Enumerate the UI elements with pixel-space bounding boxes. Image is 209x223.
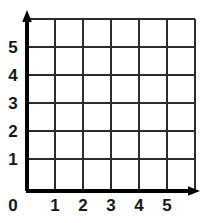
- grid-lines: [27, 19, 195, 191]
- y-tick-label-4: 4: [3, 67, 23, 84]
- y-tick-label-1: 1: [3, 151, 23, 168]
- x-axis-arrow-icon: [188, 186, 200, 196]
- x-tick-label-3: 3: [101, 197, 121, 214]
- x-tick-label-4: 4: [129, 197, 149, 214]
- y-tick-label-3: 3: [3, 95, 23, 112]
- x-tick-label-5: 5: [157, 197, 177, 214]
- x-tick-label-0: 0: [3, 197, 23, 214]
- grid-canvas: [0, 0, 209, 223]
- y-tick-label-5: 5: [3, 39, 23, 56]
- y-tick-label-2: 2: [3, 123, 23, 140]
- x-tick-label-1: 1: [45, 197, 65, 214]
- y-axis: [22, 10, 32, 191]
- x-axis: [26, 186, 200, 196]
- x-tick-label-2: 2: [73, 197, 93, 214]
- y-axis-arrow-icon: [22, 10, 32, 22]
- coordinate-grid-figure: 0 1 2 3 4 5 5 4 3 2 1: [0, 0, 209, 223]
